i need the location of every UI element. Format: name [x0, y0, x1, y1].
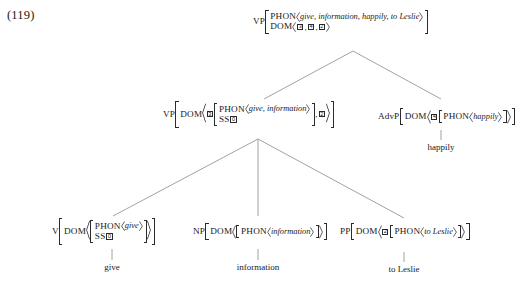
- angle-open-icon: [245, 104, 249, 114]
- angle-close-icon: [310, 227, 314, 237]
- angle-close-icon: [306, 104, 310, 114]
- angle-close-icon: [419, 12, 423, 22]
- avm-pp: DOM 2 PHON to Leslie: [351, 223, 470, 240]
- terminal-give: give: [104, 262, 120, 272]
- avm-row-phon: PHON give, information: [219, 104, 311, 114]
- branch-root-to-vp: [264, 51, 353, 99]
- attr-phon: PHON: [443, 111, 469, 122]
- angle-open-icon: [378, 225, 382, 239]
- avm-advp: DOM 4 PHON happily: [400, 108, 515, 125]
- angle-close-icon: [147, 220, 151, 240]
- node-label-np: NP: [193, 226, 205, 237]
- avm-np: DOM PHON information: [205, 223, 327, 240]
- angle-open-icon: [427, 110, 431, 124]
- attr-dom: DOM: [210, 226, 232, 237]
- comma: ,: [315, 109, 318, 119]
- comma: ,: [315, 22, 318, 32]
- angle-close-icon: [498, 112, 502, 122]
- tag-box: 3: [207, 111, 213, 117]
- bracket-close-icon: [324, 223, 327, 240]
- angle-open-icon: [267, 227, 271, 237]
- attr-dom: DOM: [270, 21, 292, 32]
- node-root-vp: VP PHON give, information, happily, to L…: [253, 10, 428, 34]
- avm-vp-mid: DOM 3 PHON give, information: [175, 101, 334, 128]
- node-v: V DOM PHON give: [52, 218, 155, 245]
- attr-phon: PHON: [394, 226, 420, 237]
- branch-vp-to-pp: [258, 139, 404, 218]
- node-advp: AdvP DOM 4 PHON happily: [378, 108, 515, 125]
- value-phon-advp: happily: [473, 112, 498, 122]
- attr-ss: SS: [219, 114, 230, 125]
- value-phon-v: give: [125, 221, 139, 231]
- angle-close-icon: [319, 225, 323, 239]
- angle-close-icon: [326, 103, 330, 123]
- terminal-happily: happily: [428, 142, 455, 152]
- avm-root: PHON give, information, happily, to Lesl…: [265, 10, 427, 34]
- tag-box: 2: [319, 24, 325, 30]
- avm-row-phon: PHON happily: [443, 112, 502, 122]
- tag-box: 0: [106, 233, 112, 239]
- attr-dom: DOM: [356, 226, 378, 237]
- node-np: NP DOM PHON information: [193, 223, 327, 240]
- node-label-v: V: [52, 226, 59, 237]
- avm-row-phon: PHON to Leslie: [394, 227, 456, 237]
- angle-close-icon: [139, 221, 143, 231]
- tag-box: 0: [230, 116, 236, 122]
- angle-close-icon: [453, 227, 457, 237]
- avm-row-dom: DOM 3 , 4 , 2: [270, 22, 423, 32]
- branch-vp-to-v: [113, 139, 258, 216]
- angle-close-icon: [461, 225, 465, 239]
- angle-close-icon: [507, 110, 511, 124]
- comma: ,: [304, 22, 307, 32]
- angle-close-icon: [326, 22, 330, 32]
- attr-phon: PHON: [241, 226, 267, 237]
- node-pp: PP DOM 2 PHON to Leslie: [340, 223, 470, 240]
- node-label-pp: PP: [340, 226, 351, 237]
- avm-row-ss: SS 0: [219, 114, 311, 124]
- bracket-close-icon: [331, 101, 334, 128]
- bracket-close-icon: [152, 218, 155, 245]
- terminal-to-leslie: to Leslie: [388, 264, 419, 274]
- tag-box: 2: [319, 111, 325, 117]
- node-label-vp-mid: VP: [163, 109, 175, 120]
- value-phon-root: give, information, happily, to Leslie: [300, 12, 419, 22]
- node-vp-mid: VP DOM 3 PHON give, information: [163, 101, 334, 128]
- value-phon-pp: to Leslie: [424, 227, 453, 237]
- avm-inner-pp: PHON to Leslie: [390, 225, 462, 238]
- bracket-close-icon: [425, 10, 428, 34]
- angle-open-icon: [202, 103, 206, 123]
- tag-box: 2: [382, 229, 388, 235]
- bracket-close-icon: [512, 108, 515, 125]
- angle-open-icon: [420, 227, 424, 237]
- branch-root-to-advp: [353, 51, 441, 99]
- avm-row-phon: PHON give: [95, 221, 143, 231]
- attr-dom: DOM: [405, 111, 427, 122]
- avm-row-phon: PHON give, information, happily, to Lesl…: [270, 12, 423, 22]
- node-label-advp: AdvP: [378, 111, 400, 122]
- angle-open-icon: [292, 22, 296, 32]
- tag-box: 4: [308, 24, 314, 30]
- angle-open-icon: [232, 225, 236, 239]
- angle-open-icon: [469, 112, 473, 122]
- angle-open-icon: [121, 221, 125, 231]
- avm-inner-v: PHON give SS 0: [90, 220, 147, 244]
- bracket-close-icon: [466, 223, 469, 240]
- example-number: (119): [7, 8, 35, 23]
- angle-open-icon: [296, 12, 300, 22]
- node-label-vp: VP: [253, 16, 265, 27]
- tag-box: 4: [431, 114, 437, 120]
- attr-ss: SS: [95, 231, 106, 242]
- value-phon-vp-mid: give, information: [249, 104, 307, 114]
- avm-row-ss: SS 0: [95, 231, 143, 241]
- value-phon-np: information: [271, 227, 311, 237]
- attr-dom: DOM: [180, 109, 202, 120]
- avm-row-phon: PHON information: [241, 227, 314, 237]
- avm-inner-vp-mid: PHON give, information SS 0: [214, 103, 315, 127]
- tag-box: 3: [297, 24, 303, 30]
- attr-dom: DOM: [64, 226, 86, 237]
- angle-open-icon: [86, 220, 90, 240]
- avm-inner-advp: PHON happily: [439, 110, 507, 123]
- avm-v: DOM PHON give: [59, 218, 155, 245]
- terminal-information: information: [237, 262, 280, 272]
- avm-inner-np: PHON information: [236, 225, 319, 238]
